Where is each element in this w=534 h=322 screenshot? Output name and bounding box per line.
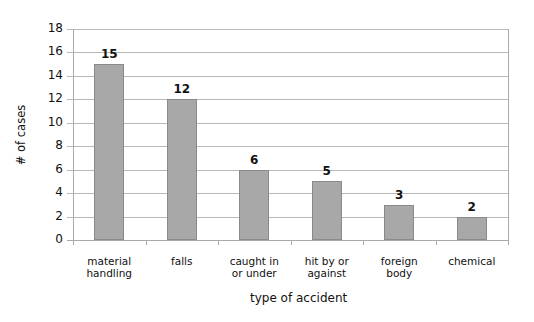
plot-right-border: [508, 29, 509, 245]
x-category-label: material handling: [69, 255, 149, 279]
data-label: 5: [307, 164, 347, 178]
gridline: [67, 99, 508, 100]
y-tick-label: 18: [39, 21, 63, 35]
gridline: [67, 170, 508, 171]
y-tick-label: 2: [39, 209, 63, 223]
y-tick-label: 14: [39, 68, 63, 82]
bar-chart: # of cases type of accident 024681012141…: [0, 0, 534, 322]
x-axis-title: type of accident: [250, 291, 347, 305]
gridline: [67, 146, 508, 147]
gridline: [67, 52, 508, 53]
x-category-label: falls: [142, 255, 222, 267]
data-label: 12: [162, 82, 202, 96]
y-axis-title: # of cases: [14, 100, 28, 170]
data-label: 2: [452, 200, 492, 214]
gridline: [67, 29, 508, 30]
gridline: [67, 193, 508, 194]
y-axis: [73, 29, 74, 240]
data-label: 15: [89, 47, 129, 61]
bar: [94, 64, 124, 240]
y-tick-label: 4: [39, 185, 63, 199]
x-tick: [436, 240, 437, 245]
y-tick-label: 6: [39, 162, 63, 176]
y-tick-label: 16: [39, 44, 63, 58]
x-category-label: chemical: [432, 255, 512, 267]
x-tick: [73, 240, 74, 245]
bar: [384, 205, 414, 240]
y-tick-label: 0: [39, 232, 63, 246]
x-category-label: hit by or against: [287, 255, 367, 279]
bar: [457, 217, 487, 240]
data-label: 3: [379, 188, 419, 202]
bar: [312, 181, 342, 240]
x-tick: [146, 240, 147, 245]
y-tick-label: 12: [39, 91, 63, 105]
gridline: [67, 217, 508, 218]
x-tick: [508, 240, 509, 245]
x-tick: [291, 240, 292, 245]
x-axis: [67, 240, 508, 241]
gridline: [67, 76, 508, 77]
gridline: [67, 123, 508, 124]
x-tick: [218, 240, 219, 245]
y-tick-label: 8: [39, 138, 63, 152]
y-tick-label: 10: [39, 115, 63, 129]
x-category-label: foreign body: [359, 255, 439, 279]
bar: [167, 99, 197, 240]
data-label: 6: [234, 153, 274, 167]
bar: [239, 170, 269, 240]
x-tick: [363, 240, 364, 245]
x-category-label: caught in or under: [214, 255, 294, 279]
